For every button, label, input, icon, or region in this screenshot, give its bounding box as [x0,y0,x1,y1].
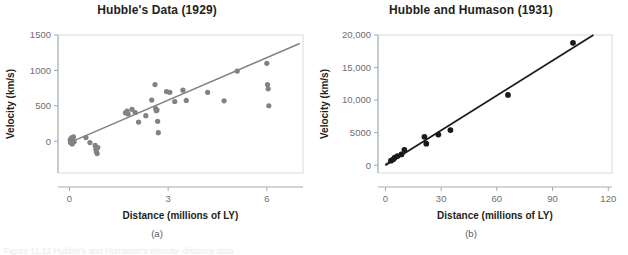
data-point [95,145,100,150]
data-point [266,86,271,91]
panel-b-plot: 0500010,00015,00020,0000306090120Distanc… [314,18,628,223]
data-point [422,134,428,140]
x-tick-label: 90 [547,193,558,204]
data-point [83,135,88,140]
x-tick-label: 60 [492,193,503,204]
data-point [136,119,141,124]
data-point [570,40,576,46]
x-tick-label: 0 [67,193,72,204]
data-point [152,82,157,87]
y-tick-label: 10,000 [342,94,371,105]
x-axis-title: Distance (millions of LY) [123,210,239,221]
data-point [448,127,454,133]
data-point [172,99,177,104]
data-point [205,90,210,95]
y-tick-label: 0 [366,160,371,171]
panel-b-sublabel: (b) [314,228,628,239]
y-axis-title: Velocity (km/s) [319,69,330,139]
trend-line [70,43,300,142]
data-point [95,151,100,156]
x-tick-label: 120 [600,193,616,204]
x-tick-label: 3 [166,193,171,204]
data-point [264,61,269,66]
data-point [155,119,160,124]
y-tick-label: 1000 [30,65,51,76]
data-point [235,68,240,73]
data-point [401,147,407,153]
x-tick-label: 0 [383,193,388,204]
data-point [71,134,76,139]
data-point [125,111,130,116]
data-point [156,130,161,135]
panel-b-title: Hubble and Humason (1931) [314,3,628,17]
x-tick-label: 6 [264,193,269,204]
y-axis-title: Velocity (km/s) [5,69,16,139]
data-point [143,113,148,118]
data-point [221,98,226,103]
chart-panel-a: Hubble's Data (1929) 050010001500036Dist… [0,0,314,255]
data-point [154,107,159,112]
figure-caption-clipped: Figure 11.12 Hubble's and Humason's velo… [4,246,233,255]
y-tick-label: 500 [35,100,51,111]
data-point [133,110,138,115]
data-point [180,88,185,93]
x-tick-label: 30 [436,193,447,204]
x-axis-title: Distance (millions of LY) [437,210,553,221]
data-point [72,139,77,144]
plot-frame [378,35,612,173]
y-tick-label: 1500 [30,29,51,40]
data-point [149,98,154,103]
y-tick-label: 0 [46,136,51,147]
panel-a-sublabel: (a) [0,228,314,239]
data-point [87,140,92,145]
y-tick-label: 15,000 [342,62,371,73]
data-point [167,90,172,95]
hubble-figure: Hubble's Data (1929) 050010001500036Dist… [0,0,628,255]
panel-a-plot: 050010001500036Distance (millions of LY)… [0,18,314,223]
y-tick-label: 20,000 [342,29,371,40]
data-point [423,141,429,147]
data-point [184,98,189,103]
data-point [266,103,271,108]
panel-a-title: Hubble's Data (1929) [0,3,314,17]
chart-panel-b: Hubble and Humason (1931) 0500010,00015,… [314,0,628,255]
data-point [505,92,511,98]
y-tick-label: 5000 [350,127,371,138]
trend-line [385,35,593,165]
data-point [435,132,441,138]
